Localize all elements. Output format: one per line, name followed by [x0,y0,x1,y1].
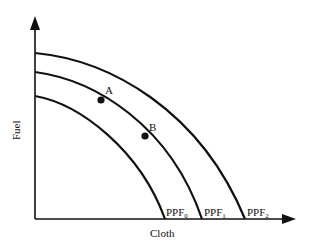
ppf0-label-base: PPF [166,206,184,218]
point-b-marker [141,132,148,139]
ppf1-label-base: PPF [204,206,222,218]
ppf2-label-base: PPF [247,206,265,218]
ppf1-label-sub: 1 [222,212,226,220]
point-a-marker [97,96,104,103]
ppf2-label: PPF2 [247,207,269,220]
ppf2-curve [35,53,245,219]
ppf1-label: PPF1 [204,207,226,220]
point-a-label: A [105,85,113,96]
x-axis-arrow-icon [282,214,296,224]
ppf0-curve [35,96,165,219]
ppf2-label-sub: 2 [265,212,269,220]
x-axis-label: Cloth [150,228,174,239]
y-axis-arrow-icon [30,16,40,30]
y-axis-label: Fuel [10,120,22,140]
ppf0-label-sub: 0 [184,212,188,220]
point-b-label: B [149,122,156,133]
ppf0-label: PPF0 [166,207,188,220]
